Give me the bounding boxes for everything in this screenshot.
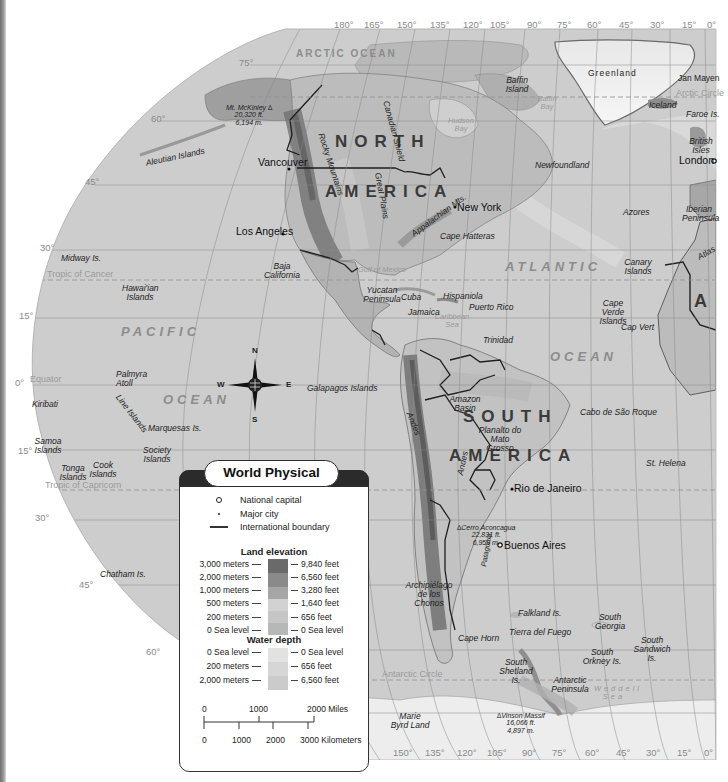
international-boundary-icon bbox=[208, 526, 230, 528]
newfoundland-label: Newfoundland bbox=[535, 161, 589, 170]
compass-e: E bbox=[286, 381, 291, 389]
samoa-islands-label: Samoa Islands bbox=[34, 437, 62, 455]
weddell-sea-label: Weddell Sea bbox=[594, 685, 634, 701]
antarctic-circle-label: Antarctic Circle bbox=[382, 670, 443, 679]
cap-vert-label: Cap Vert bbox=[621, 323, 654, 332]
lon-label: 90° bbox=[527, 20, 541, 30]
tropic-of-cancer-label: Tropic of Cancer bbox=[47, 270, 113, 279]
lat-label: 15° bbox=[18, 446, 32, 456]
cape-hatteras-label: Cape Hatteras bbox=[440, 232, 495, 241]
puerto-rico-label: Puerto Rico bbox=[469, 303, 513, 312]
national-capital-icon bbox=[208, 497, 230, 503]
elevation-meters: 3,000 meters bbox=[180, 559, 261, 569]
legend-international-boundary: International boundary bbox=[208, 522, 330, 532]
azores-label: Azores bbox=[623, 208, 649, 217]
elevation-swatch-200 bbox=[268, 611, 288, 623]
depth-feet: 656 feet bbox=[291, 661, 332, 671]
pacific-label: PACIFIC bbox=[121, 325, 200, 339]
cuba-label: Cuba bbox=[401, 293, 421, 302]
depth-swatch-0 bbox=[268, 648, 288, 662]
gulf-of-mexico-label: Gulf of Mexico bbox=[358, 266, 406, 274]
compass-n: N bbox=[252, 347, 258, 355]
elevation-feet: 656 feet bbox=[291, 612, 332, 622]
marquesas-is-label: Marquesas Is. bbox=[148, 424, 201, 433]
lon-label: 60° bbox=[587, 20, 601, 30]
lat-label: 30° bbox=[35, 513, 49, 523]
lat-label: 30° bbox=[40, 243, 54, 253]
lat-label: 60° bbox=[146, 647, 160, 657]
map-legend: World Physical National capital Major ci… bbox=[179, 470, 369, 772]
city-new-york: New York bbox=[457, 202, 501, 213]
south-sandwich-is-label: South Sandwich Is. bbox=[630, 636, 674, 663]
jamaica-label: Jamaica bbox=[408, 308, 440, 317]
iberian-peninsula-label: Iberian Peninsula bbox=[682, 205, 716, 223]
scale-km-0: 0 bbox=[202, 735, 207, 745]
atlantic-ocean-label: OCEAN bbox=[550, 350, 617, 364]
elevation-swatch-1000 bbox=[268, 587, 288, 599]
elevation-meters: 2,000 meters bbox=[180, 572, 261, 582]
city-rio-de-janeiro: Rio de Janeiro bbox=[514, 483, 582, 494]
south-georgia-label: South Georgia bbox=[592, 613, 628, 631]
chatham-is-label: Chatham Is. bbox=[100, 570, 146, 579]
elevation-feet: 6,560 feet bbox=[291, 572, 339, 582]
lon-label: 30° bbox=[650, 20, 664, 30]
elevation-feet: 9,840 feet bbox=[291, 559, 339, 569]
africa-label-partial: A bbox=[694, 292, 707, 311]
elevation-swatch-500 bbox=[268, 599, 288, 611]
depth-swatch-2000 bbox=[268, 676, 288, 690]
lat-label: 45° bbox=[85, 177, 99, 187]
lat-label: 0° bbox=[15, 378, 24, 388]
planalto-label: Planalto do Mato Grosso bbox=[478, 426, 522, 453]
land-elevation-heading: Land elevation bbox=[179, 546, 369, 557]
faroe-islands-label: Faroe Is. bbox=[686, 110, 720, 119]
society-islands-label: Society Islands bbox=[143, 446, 171, 464]
lon-label: 60° bbox=[585, 748, 599, 758]
lon-label: 0° bbox=[707, 20, 716, 30]
scale-km-2000: 2000 bbox=[266, 735, 285, 745]
tonga-islands-label: Tonga Islands bbox=[59, 464, 87, 482]
scale-miles-0: 0 bbox=[202, 704, 207, 714]
depth-feet: 0 Sea level bbox=[291, 647, 343, 657]
lon-label: 150° bbox=[393, 748, 413, 758]
scale-bar-graphic bbox=[202, 715, 327, 731]
baffin-bay-label: Baffin Bay bbox=[530, 95, 564, 111]
south-orkney-is-label: South Orkney Is. bbox=[582, 648, 622, 666]
canary-islands-label: Canary Islands bbox=[620, 258, 656, 276]
elevation-feet: 1,640 feet bbox=[291, 598, 339, 608]
major-city-icon bbox=[208, 513, 230, 516]
cape-horn-label: Cape Horn bbox=[458, 634, 499, 643]
tropic-of-capricorn-label: Tropic of Capricorn bbox=[45, 481, 121, 490]
baja-california-label: Baja California bbox=[260, 262, 304, 280]
lon-label: 75° bbox=[552, 748, 566, 758]
lon-label: 45° bbox=[616, 748, 630, 758]
midway-is-label: Midway Is. bbox=[61, 254, 101, 263]
baffin-island-label: Baffin Island bbox=[500, 76, 534, 94]
lon-label: 15° bbox=[677, 748, 691, 758]
scale-miles-1000: 1000 bbox=[249, 704, 268, 714]
lat-label: 75° bbox=[239, 58, 253, 68]
hispaniola-label: Hispaniola bbox=[443, 292, 483, 301]
lon-label: 135° bbox=[425, 748, 445, 758]
scale-km-1000: 1000 bbox=[232, 735, 251, 745]
lat-label: 45° bbox=[79, 580, 93, 590]
depth-meters: 0 Sea level bbox=[180, 647, 261, 657]
elevation-swatch-3000 bbox=[268, 559, 288, 573]
scale-miles-2000: 2000 Miles bbox=[307, 704, 348, 714]
depth-meters: 200 meters bbox=[180, 661, 261, 671]
cabo-de-sao-roque-label: Cabo de São Roque bbox=[580, 408, 657, 417]
lon-label: 105° bbox=[487, 748, 507, 758]
elevation-meters: 500 meters bbox=[180, 598, 261, 608]
lon-label: 75° bbox=[557, 20, 571, 30]
trinidad-label: Trinidad bbox=[483, 336, 513, 345]
greenland-label: Greenland bbox=[588, 69, 637, 78]
kiribati-label: Kiribati bbox=[32, 400, 58, 409]
archipielago-de-los-chonos-label: Archipiélago de los Chonos bbox=[404, 581, 454, 608]
elevation-meters: 200 meters bbox=[180, 612, 261, 622]
compass-w: W bbox=[217, 381, 225, 389]
hawaiian-islands-label: Hawai'ian Islands bbox=[122, 284, 158, 302]
legend-title: World Physical bbox=[204, 460, 339, 487]
scale-km-3000: 3000 Kilometers bbox=[300, 735, 361, 745]
legend-symbol-label: National capital bbox=[240, 495, 302, 505]
legend-national-capital: National capital bbox=[208, 495, 302, 505]
arctic-circle-label: Arctic Circle bbox=[676, 89, 724, 98]
